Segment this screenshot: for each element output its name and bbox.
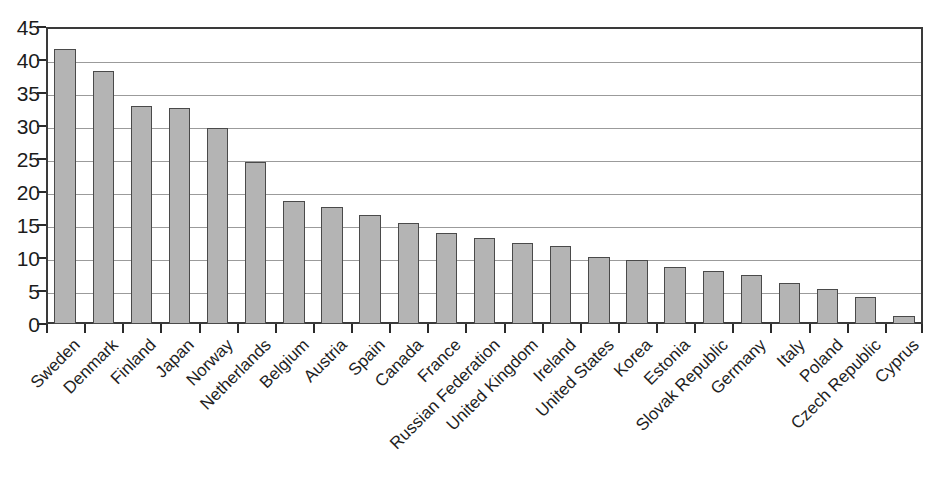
x-axis-category-labels: SwedenDenmarkFinlandJapanNorwayNetherlan… [0,0,932,502]
bar-chart: 051015202530354045 SwedenDenmarkFinlandJ… [0,0,932,502]
